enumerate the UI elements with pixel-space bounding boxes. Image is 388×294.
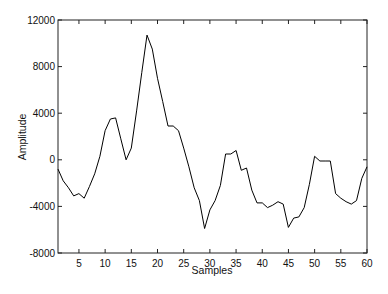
x-axis-label: Samples (192, 264, 233, 276)
x-tick-label: 40 (257, 258, 269, 269)
line-chart: -8000-400004000800012000 510152025303540… (0, 0, 388, 294)
x-tick-label: 25 (178, 258, 190, 269)
y-tick-label: -4000 (29, 201, 55, 212)
y-axis-label: Amplitude (16, 114, 28, 161)
x-tick-label: 50 (309, 258, 321, 269)
y-tick-label: 12000 (27, 15, 55, 26)
x-tick-label: 15 (126, 258, 138, 269)
x-tick-label: 5 (76, 258, 82, 269)
y-tick-label: 8000 (33, 61, 56, 72)
x-tick-label: 10 (100, 258, 112, 269)
x-tick-label: 20 (152, 258, 164, 269)
y-tick-label: 4000 (33, 108, 56, 119)
x-tick-label: 45 (283, 258, 295, 269)
y-tick-label: -8000 (29, 248, 55, 259)
y-tick-label: 0 (49, 154, 55, 165)
x-tick-label: 55 (335, 258, 347, 269)
x-tick-label: 60 (361, 258, 373, 269)
